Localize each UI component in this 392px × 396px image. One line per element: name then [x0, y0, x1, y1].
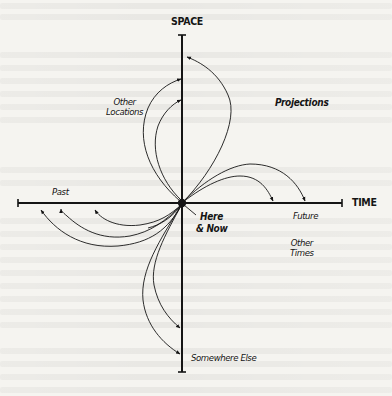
projections-label: Projections [275, 98, 328, 109]
other-locations-line2: Locations [106, 107, 143, 117]
arrows-somewhere-else [143, 204, 182, 354]
here-now-label: Here & Now [196, 211, 228, 234]
arrow-space-down-far [143, 204, 182, 354]
arrow-past-2 [61, 204, 182, 237]
other-times-line2: Times [290, 248, 314, 258]
arrow-future-near [183, 176, 273, 202]
here-now-line1: Here [196, 211, 228, 223]
past-label: Past [52, 187, 69, 197]
arrows-future [183, 164, 305, 202]
other-times-label: Other Times [290, 238, 314, 258]
arrow-space-up-3 [155, 100, 181, 200]
diagram-svg [0, 0, 392, 396]
diagram-canvas: SPACE TIME Other Locations Projections P… [0, 0, 392, 396]
arrow-space-up-2 [143, 79, 181, 201]
arrow-future-far [183, 164, 305, 202]
arrow-space-down-near [153, 204, 182, 328]
time-axis-label: TIME [352, 197, 377, 208]
arrow-space-up-1 [182, 57, 231, 203]
somewhere-else-label: Somewhere Else [191, 353, 256, 363]
other-locations-label: Other Locations [106, 97, 143, 117]
here-now-line2: & Now [196, 223, 228, 235]
here-now-pointer [184, 205, 196, 215]
space-axis-label: SPACE [171, 16, 203, 27]
arrow-past-bundle [148, 204, 182, 228]
future-label: Future [293, 211, 318, 221]
